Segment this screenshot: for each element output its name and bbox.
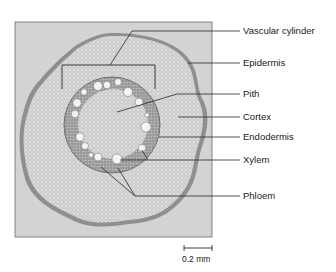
root-cross-section-figure: Vascular cylinder Epidermis Pith Cortex … <box>0 0 336 272</box>
label-endodermis: Endodermis <box>243 132 294 142</box>
label-cortex: Cortex <box>243 112 271 122</box>
label-pith: Pith <box>243 89 259 99</box>
scale-bar <box>184 245 212 251</box>
scale-bar-label: 0.2 mm <box>182 254 210 264</box>
label-phloem: Phloem <box>243 191 275 201</box>
label-xylem: Xylem <box>243 155 269 165</box>
label-epidermis: Epidermis <box>243 58 285 68</box>
label-vascular-cylinder: Vascular cylinder <box>243 26 315 36</box>
